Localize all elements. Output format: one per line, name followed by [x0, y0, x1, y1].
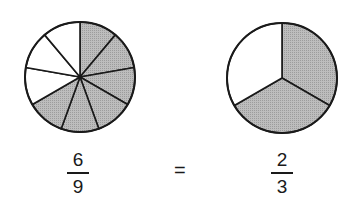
fraction-six-ninths: 6 9 — [63, 150, 93, 196]
fraction-bar — [271, 172, 293, 174]
fraction-bar — [67, 172, 89, 174]
pie-ninths — [25, 22, 135, 132]
numerator: 6 — [63, 150, 93, 169]
equals-sign: = — [174, 159, 186, 182]
denominator: 3 — [267, 177, 297, 196]
denominator: 9 — [63, 177, 93, 196]
pie-thirds — [227, 23, 337, 133]
numerator: 2 — [267, 150, 297, 169]
fraction-two-thirds: 2 3 — [267, 150, 297, 196]
